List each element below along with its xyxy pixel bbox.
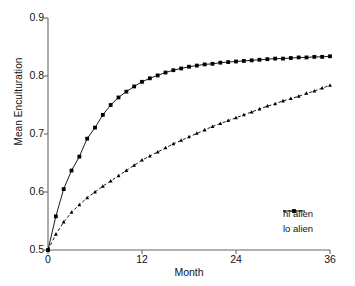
legend-key-dashed-triangle-icon	[283, 206, 305, 216]
chart-legend: hi alien lo alien	[283, 206, 313, 236]
legend-item-lo-alien: lo alien	[283, 221, 313, 236]
chart-figure: Mean Enculturation 0.9 0.8 0.7 0.6 0.5 0…	[0, 0, 355, 286]
plot-canvas	[0, 0, 355, 286]
legend-label: lo alien	[283, 224, 313, 234]
